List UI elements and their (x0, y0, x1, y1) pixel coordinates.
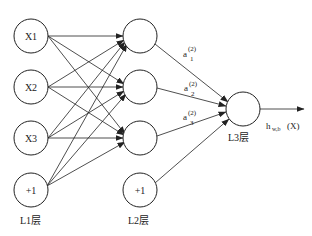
neural-network-diagram: X1 X2 X3 +1 +1 a (2) 1 a (2) 2 a (2) 3 h… (0, 0, 312, 236)
node-bias-1-label: +1 (26, 185, 37, 196)
hidden-node-3 (123, 121, 157, 155)
svg-text:1: 1 (190, 55, 194, 63)
output-label: h w,b (X) (266, 121, 300, 132)
svg-text:2: 2 (191, 90, 195, 98)
diagram-svg: X1 X2 X3 +1 +1 a (2) 1 a (2) 2 a (2) 3 h… (0, 0, 312, 236)
layer-1-label: L1层 (20, 215, 41, 226)
activation-label-1: a (2) 1 (183, 45, 197, 63)
layer-3-label: L3层 (228, 132, 249, 143)
svg-text:a: a (184, 83, 188, 93)
layer-1 (14, 19, 48, 207)
svg-text:a: a (183, 112, 187, 122)
hidden-node-1 (123, 19, 157, 53)
node-x1-label: X1 (25, 31, 37, 42)
svg-text:h: h (266, 121, 271, 131)
output-node (226, 92, 260, 126)
layer-2-label: L2层 (128, 215, 149, 226)
hidden-node-2 (123, 70, 157, 104)
svg-text:(2): (2) (189, 80, 198, 88)
l1-to-l2-edges (47, 36, 127, 186)
svg-text:3: 3 (190, 119, 194, 127)
layer-2 (123, 19, 157, 207)
node-x3-label: X3 (25, 133, 37, 144)
node-bias-2-label: +1 (135, 185, 146, 196)
activation-label-3: a (2) 3 (183, 109, 197, 127)
svg-text:(X): (X) (287, 121, 300, 131)
svg-text:a: a (183, 49, 187, 59)
svg-text:(2): (2) (188, 45, 197, 53)
svg-text:(2): (2) (188, 109, 197, 117)
node-x2-label: X2 (25, 82, 37, 93)
svg-text:w,b: w,b (272, 126, 280, 132)
